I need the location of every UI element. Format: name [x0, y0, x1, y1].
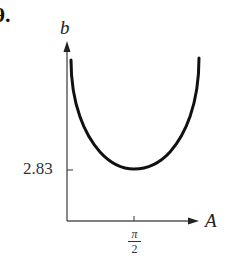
x-tick-numerator: π [127, 228, 142, 240]
x-tick-label: π 2 [127, 228, 142, 255]
plot-area [0, 0, 226, 256]
x-axis-label: A [205, 211, 217, 230]
x-axis-arrowhead-icon [188, 218, 199, 225]
x-tick-denominator: 2 [127, 243, 142, 255]
curve-b-of-A [71, 58, 199, 169]
y-axis-arrowhead-icon [64, 41, 71, 52]
y-axis-label: b [60, 18, 70, 37]
y-tick-label: 2.83 [23, 160, 53, 178]
